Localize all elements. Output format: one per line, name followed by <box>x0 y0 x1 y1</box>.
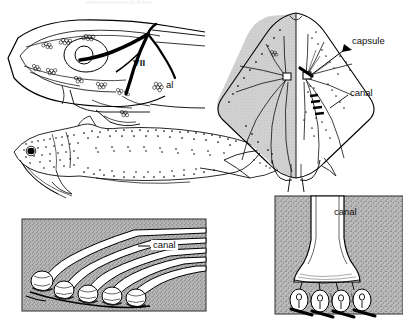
al-rosette-marker <box>153 82 164 92</box>
panel-ray <box>217 13 374 192</box>
label-nerve-vii: VII <box>133 58 146 68</box>
figure-canvas: electroreception in fishes <box>0 0 403 335</box>
top-caption: electroreception in fishes <box>86 0 236 7</box>
panel-fish-head <box>8 20 205 126</box>
label-ampullary-line-al: al <box>166 80 173 90</box>
figure-illustration <box>0 0 403 335</box>
label-left-panel-canal: canal <box>151 240 178 250</box>
panel-ampullae-left <box>22 219 206 311</box>
label-ray-canal: canal <box>350 88 373 98</box>
label-right-panel-canal: canal <box>334 207 357 217</box>
label-capsule: capsule <box>352 36 385 46</box>
